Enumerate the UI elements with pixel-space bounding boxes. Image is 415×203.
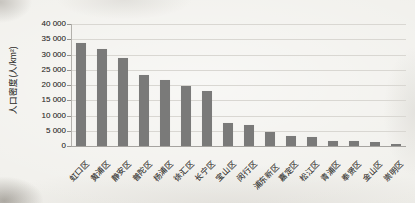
x-axis-label: 嘉定区 (277, 160, 300, 183)
x-axis-label: 静安区 (110, 160, 133, 183)
y-axis-tick-label: 5 000 (28, 126, 66, 136)
bar (391, 144, 401, 146)
x-axis-label: 长宁区 (193, 160, 216, 183)
y-axis-tick-label: 0 (28, 141, 66, 151)
y-axis-tick-label: 25 000 (28, 65, 66, 75)
bar (181, 86, 191, 146)
y-axis-tick-label: 40 000 (28, 19, 66, 29)
bar (139, 75, 149, 146)
x-axis-label: 徐汇区 (173, 160, 196, 183)
x-axis-label: 青浦区 (319, 160, 342, 183)
x-axis-label: 崇明区 (382, 160, 405, 183)
x-axis-label: 闵行区 (235, 160, 258, 183)
x-axis-label: 普陀区 (131, 160, 154, 183)
bar (370, 142, 380, 146)
y-axis-tick-label: 30 000 (28, 50, 66, 60)
x-axis-label: 黄浦区 (89, 160, 112, 183)
bar (244, 125, 254, 146)
x-axis-label: 奉贤区 (340, 160, 363, 183)
y-axis-tick-label: 35 000 (28, 34, 66, 44)
y-axis-tick-label: 10 000 (28, 111, 66, 121)
bar (349, 141, 359, 146)
bar (265, 132, 275, 146)
x-axis-label: 虹口区 (68, 160, 91, 183)
gridline (71, 39, 406, 40)
y-axis-title: 人口密度(人/km²) (6, 24, 18, 136)
y-axis-line (71, 24, 72, 146)
bar (97, 49, 107, 146)
bar-chart: 人口密度(人/km²) 05 00010 00015 00020 00025 0… (0, 0, 415, 203)
bar (328, 141, 338, 146)
y-axis-tick-label: 20 000 (28, 80, 66, 90)
bar (307, 137, 317, 146)
y-axis-tick (67, 146, 71, 147)
bar (202, 91, 212, 146)
bar (160, 80, 170, 146)
scanned-page: 人口密度(人/km²) 05 00010 00015 00020 00025 0… (0, 0, 415, 203)
x-axis-label: 宝山区 (214, 160, 237, 183)
x-axis-label: 杨浦区 (152, 160, 175, 183)
bar (286, 136, 296, 146)
x-axis-line (71, 146, 406, 147)
gridline (71, 24, 406, 25)
x-axis-label: 金山区 (361, 160, 384, 183)
x-axis-label: 松江区 (298, 160, 321, 183)
bar (118, 58, 128, 146)
bar (223, 123, 233, 146)
bar (76, 43, 86, 146)
y-axis-tick-label: 15 000 (28, 95, 66, 105)
gridline (71, 55, 406, 56)
